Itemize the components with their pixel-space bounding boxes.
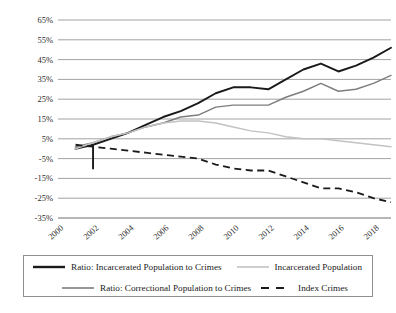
legend-row-2: Ratio: Correctional Population to Crimes… (24, 277, 372, 298)
chart-figure: 65%55%45%35%25%15%5%-5%-15%-25%-35%20002… (0, 0, 396, 313)
x-axis-tick-label: 2012 (256, 223, 275, 242)
y-axis-tick-label: -15% (35, 173, 53, 183)
legend-swatch-dashed-dark-icon (259, 283, 293, 293)
series-line (76, 75, 391, 146)
series-line (76, 145, 391, 202)
x-axis-tick-label: 2004 (116, 222, 136, 241)
x-axis-tick-label: 2016 (326, 223, 345, 242)
x-axis-tick: 2004 (116, 222, 136, 241)
x-axis-tick: 2012 (256, 223, 275, 242)
x-axis-tick-label: 2006 (151, 223, 170, 242)
x-axis-tick: 2014 (291, 222, 311, 241)
y-axis-tick-label: 5% (42, 134, 53, 144)
x-axis-tick: 2018 (362, 223, 381, 242)
y-axis-tick-label: -35% (35, 213, 53, 223)
legend-label-ratio-correctional-to-crimes: Ratio: Correctional Population to Crimes (100, 283, 251, 293)
x-axis-tick: 2010 (221, 223, 240, 242)
figure-caption (0, 303, 396, 313)
y-axis-tick-label: 15% (37, 114, 53, 124)
x-axis-tick-label: 2014 (291, 222, 311, 241)
y-axis-tick-label: -5% (39, 154, 53, 164)
legend-item-ratio-correctional-to-crimes[interactable]: Ratio: Correctional Population to Crimes (61, 283, 251, 293)
x-axis-tick: 2008 (186, 223, 205, 242)
x-axis-tick-label: 2018 (362, 223, 381, 242)
legend-swatch-solid-thick-dark-icon (32, 262, 66, 272)
legend-label-index-crimes: Index Crimes (298, 283, 348, 293)
x-axis-tick: 2006 (151, 223, 170, 242)
x-axis-tick-label: 2002 (81, 223, 100, 242)
x-axis-tick-label: 2010 (221, 223, 240, 242)
y-axis-tick-label: 55% (37, 35, 53, 45)
legend-label-incarcerated-population: Incarcerated Population (275, 262, 363, 272)
x-axis-tick-label: 2008 (186, 223, 205, 242)
y-axis-tick-label: 65% (37, 15, 53, 25)
legend-row-1: Ratio: Incarcerated Population to Crimes… (24, 256, 372, 277)
x-axis-tick: 2002 (81, 223, 100, 242)
legend-item-ratio-incarcerated-to-crimes[interactable]: Ratio: Incarcerated Population to Crimes (32, 262, 222, 272)
x-axis-tick: 2016 (326, 223, 345, 242)
legend-label-ratio-incarcerated-to-crimes: Ratio: Incarcerated Population to Crimes (71, 262, 222, 272)
legend-item-index-crimes[interactable]: Index Crimes (259, 283, 348, 293)
x-axis-tick-label: 2000 (46, 223, 65, 242)
y-axis-tick-label: 45% (37, 55, 53, 65)
legend-item-incarcerated-population[interactable]: Incarcerated Population (236, 262, 363, 272)
legend-swatch-solid-light-icon (236, 262, 270, 272)
x-axis-tick: 2000 (46, 223, 65, 242)
legend-swatch-solid-mid-icon (61, 283, 95, 293)
y-axis-tick-label: -25% (35, 193, 53, 203)
y-axis-tick-label: 25% (37, 94, 53, 104)
line-chart-plot: 65%55%45%35%25%15%5%-5%-15%-25%-35%20002… (0, 0, 396, 250)
y-axis-tick-label: 35% (37, 74, 53, 84)
chart-legend: Ratio: Incarcerated Population to Crimes… (23, 255, 373, 297)
